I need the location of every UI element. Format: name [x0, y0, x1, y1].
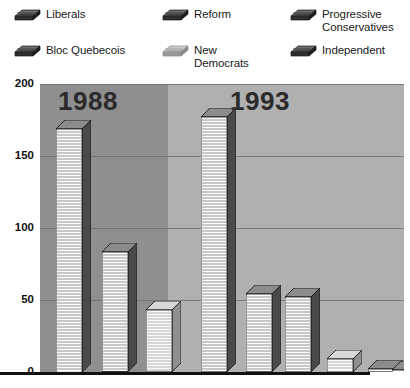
bar-swatch-icon	[162, 9, 189, 22]
legend-item-label: Liberals	[46, 8, 85, 21]
bar-swatch-icon	[290, 9, 317, 22]
legend-item-liberals[interactable]: Liberals	[14, 8, 85, 22]
bar-swatch-icon	[14, 9, 41, 22]
plot-background	[40, 84, 404, 372]
chart-legend: Liberals Reform Progressive Conservative…	[0, 0, 410, 78]
y-axis-tick-label-100: 100	[0, 221, 34, 233]
legend-item-progressive-conservatives[interactable]: Progressive Conservatives	[290, 8, 394, 33]
y-axis-tick-label-0: 0	[0, 365, 34, 377]
year-label-1988: 1988	[58, 86, 118, 117]
legend-item-bloc-quebecois[interactable]: Bloc Quebecois	[14, 44, 125, 58]
y-axis-tick-label-50: 50	[0, 293, 34, 305]
chart-plot-area: 1988 1993	[40, 84, 404, 373]
legend-item-label: Progressive Conservatives	[322, 8, 394, 33]
gridline-200	[40, 84, 404, 85]
legend-item-label: Reform	[194, 8, 231, 21]
legend-item-new-democrats[interactable]: New Democrats	[162, 44, 249, 69]
bar-1993-bloc-quebecois	[246, 285, 281, 372]
bar-1993-new-democrats	[327, 350, 362, 372]
legend-item-reform[interactable]: Reform	[162, 8, 231, 22]
legend-item-label: Bloc Quebecois	[46, 44, 125, 57]
bar-1993-liberals	[201, 108, 236, 372]
chart-screenshot: Liberals Reform Progressive Conservative…	[0, 0, 410, 388]
bar-1993-reform	[285, 288, 320, 372]
bar-1988-progressive-conservatives	[56, 120, 91, 372]
year-label-1993: 1993	[230, 86, 290, 117]
bar-swatch-icon	[14, 45, 41, 58]
bar-swatch-icon	[162, 45, 189, 58]
bar-1988-new-democrats	[146, 301, 181, 372]
bar-1993-independent	[392, 361, 404, 373]
y-axis-tick-label-150: 150	[0, 149, 34, 161]
x-axis-baseline	[0, 372, 370, 375]
legend-item-label: Independent	[322, 44, 385, 57]
y-axis-tick-label-200: 200	[0, 77, 34, 89]
legend-item-independent[interactable]: Independent	[290, 44, 385, 58]
bar-swatch-icon	[290, 45, 317, 58]
legend-item-label: New Democrats	[194, 44, 249, 69]
bar-1988-liberals	[102, 243, 137, 372]
